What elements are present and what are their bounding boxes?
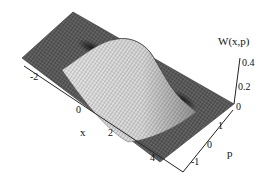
x-tick-label: 2 <box>108 127 113 138</box>
surface-mesh <box>22 12 234 162</box>
w-tick-label: 0 <box>236 101 241 112</box>
w-axis-title: W(x,p) <box>218 35 250 48</box>
p-tick-label: 1 <box>218 120 223 131</box>
p-tick-label: -1 <box>191 156 199 167</box>
x-tick-label: -2 <box>30 71 38 82</box>
p-tick-label: 0 <box>207 139 212 150</box>
p-axis-title: p <box>227 147 233 159</box>
wigner-surface-plot: -2 0 2 4 x 1 0 -1 p 0.4 0.2 0 W(x,p) <box>0 0 273 186</box>
w-tick-label: 0.4 <box>242 57 255 68</box>
w-tick-label: 0.2 <box>238 81 251 92</box>
x-tick-label: 4 <box>150 152 155 163</box>
x-tick-label: 0 <box>76 104 81 115</box>
x-axis-title: x <box>80 126 86 138</box>
